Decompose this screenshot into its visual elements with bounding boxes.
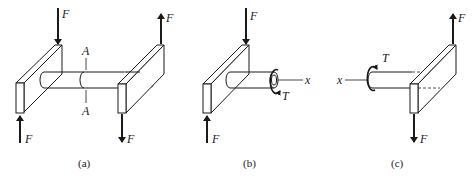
axis-label: x <box>304 73 311 87</box>
caption-c: (c) <box>391 157 404 170</box>
force-label: F <box>211 132 220 146</box>
panel-c: x T F F (c) <box>336 11 466 170</box>
axis-label: x <box>336 73 343 87</box>
section-label-bottom: A <box>81 104 90 118</box>
section-line-a-a: A A <box>81 44 90 118</box>
caption-b: (b) <box>243 157 256 170</box>
caption-a: (a) <box>78 157 91 170</box>
force-label: F <box>24 132 33 146</box>
force-label: F <box>249 9 258 23</box>
force-label: F <box>165 11 174 25</box>
left-crank-plate <box>16 45 62 113</box>
torque-label: T <box>382 51 390 65</box>
force-label: F <box>126 132 135 146</box>
force-label: F <box>457 11 466 25</box>
panel-a: A A F F F F (a) <box>16 7 174 170</box>
panel-b: x T F F (b) <box>203 8 311 170</box>
torque-arrow <box>367 66 377 90</box>
torque-label: T <box>282 89 290 103</box>
free-body-diagram: A A F F F F (a) <box>0 0 472 180</box>
crank-plate <box>410 45 456 113</box>
section-label-top: A <box>81 44 90 58</box>
right-crank-plate <box>118 45 164 113</box>
force-label: F <box>61 7 70 21</box>
force-label: F <box>419 132 428 146</box>
